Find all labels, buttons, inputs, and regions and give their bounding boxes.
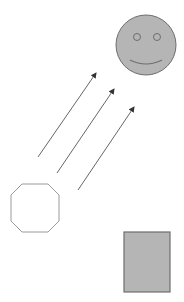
smiley-face-circle	[116, 15, 176, 75]
octagon-shape	[11, 184, 59, 232]
arrow	[78, 107, 134, 190]
gray-rectangle	[124, 232, 170, 292]
smiley-face	[116, 15, 176, 75]
arrow	[38, 73, 96, 157]
diagram-canvas	[0, 0, 184, 302]
smiley-left-eye	[134, 34, 141, 41]
smiley-right-eye	[154, 34, 161, 41]
arrows-group	[38, 73, 134, 190]
arrow	[57, 89, 114, 173]
